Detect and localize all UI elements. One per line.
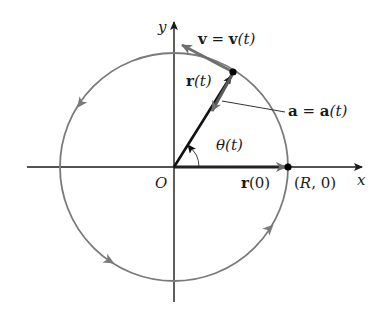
angle-label: θ(t)	[216, 136, 243, 154]
circular-motion-diagram: y x O v = v(t) r(t) a = a(t) θ(t) r(0) (…	[0, 0, 382, 313]
vector-v-t	[182, 45, 233, 72]
angle-arc	[188, 146, 199, 167]
vector-a-t	[212, 75, 232, 111]
velocity-label: v = v(t)	[197, 30, 255, 48]
position-label: r(t)	[186, 72, 212, 90]
acceleration-label: a = a(t)	[288, 102, 347, 120]
point-p	[229, 68, 236, 75]
y-axis-label: y	[157, 18, 167, 36]
origin-label: O	[155, 174, 167, 192]
initial-position-label: r(0)	[241, 174, 270, 192]
accel-leader-line	[222, 101, 285, 112]
point-r0	[284, 163, 291, 170]
point-coords-label: (R, 0)	[294, 174, 336, 192]
x-axis-label: x	[357, 171, 366, 189]
